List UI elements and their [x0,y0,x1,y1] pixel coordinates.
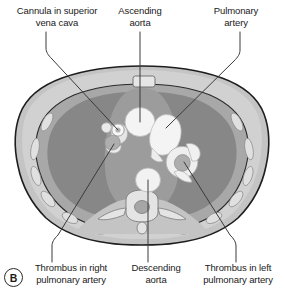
label-thrombus-in-right-pulmonary-artery: Thrombus in right pulmonary artery [18,262,124,285]
label-descending-aorta: Descending aorta [110,262,202,285]
svc-wall-right [101,123,111,133]
label-thrombus-in-left-pulmonary-artery: Thrombus in left pulmonary artery [192,262,284,285]
figure-panel: Cannula in superior vena cava Ascending … [0,0,285,292]
sternum [133,76,155,87]
label-ascending-aorta: Ascending aorta [90,5,190,28]
thrombus-right-filling-defect [105,135,120,150]
spinous-process [137,222,147,234]
label-pulmonary-artery: Pulmonary artery [190,5,282,28]
panel-letter-badge: B [4,268,23,287]
ct-cross-section-illustration [0,0,285,292]
right-pulmonary-artery-thrombus [105,135,120,150]
spinal-canal [135,201,150,214]
